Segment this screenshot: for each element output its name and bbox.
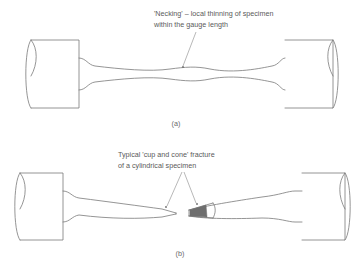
necking-annotation-line1: 'Necking' – local thinning of specimen [154, 9, 273, 18]
necking-annotation-line2: within the gauge length [153, 20, 228, 29]
panel-a-leader-dot [182, 66, 184, 68]
fracture-annotation-line2: of a cylindrical specimen [118, 161, 196, 170]
fracture-annotation-line1: Typical 'cup and cone' fracture [118, 150, 215, 159]
panel-a-label: (a) [172, 119, 181, 128]
panel-b-label: (b) [176, 249, 185, 258]
specimen-fracture-figure: 'Necking' – local thinning of specimen w… [0, 0, 364, 266]
panel-b-leader-dot-right [196, 203, 198, 205]
figure-svg: 'Necking' – local thinning of specimen w… [0, 0, 364, 266]
panel-b-leader-dot-left [165, 206, 167, 208]
